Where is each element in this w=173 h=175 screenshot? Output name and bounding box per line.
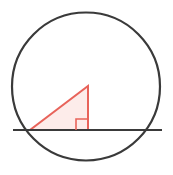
- right-triangle: [30, 86, 88, 130]
- figure-canvas: [0, 0, 173, 175]
- geometry-figure-svg: [0, 0, 173, 175]
